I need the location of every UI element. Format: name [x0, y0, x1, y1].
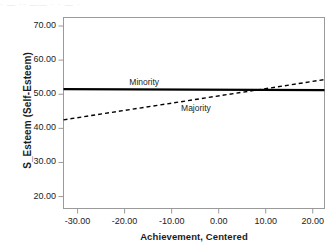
y-tick-label: 60.00 [12, 54, 56, 64]
series-label-majority: Majority [181, 103, 211, 113]
y-tick-label: 40.00 [12, 122, 56, 132]
y-tick-label: 30.00 [12, 156, 56, 166]
y-tick-label: 70.00 [12, 20, 56, 30]
series-label-minority: Minority [129, 77, 159, 87]
chart-figure: · — ·· —— · · — · 20.0030.0040.0050.0060… [0, 0, 334, 248]
x-tick-label: 20.00 [283, 216, 334, 226]
y-axis-title: S_Esteem (Self-Esteem) [22, 21, 33, 201]
x-axis-title: Achievement, Centered [63, 231, 325, 242]
series-line-minority [64, 89, 325, 90]
y-tick-label: 20.00 [12, 191, 56, 201]
y-axis-ticks [59, 26, 64, 197]
y-tick-label: 50.00 [12, 88, 56, 98]
x-axis-ticks [78, 209, 313, 214]
